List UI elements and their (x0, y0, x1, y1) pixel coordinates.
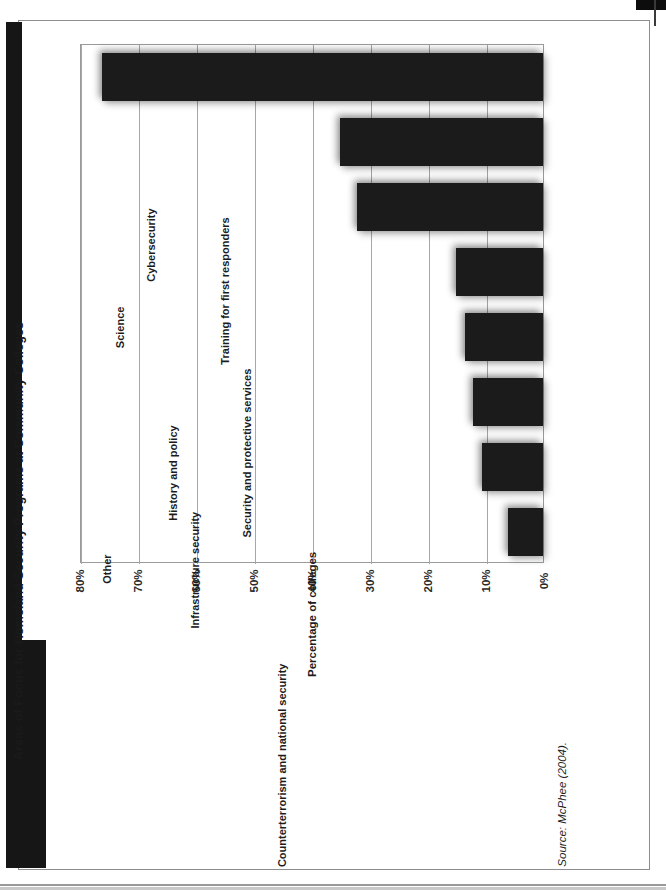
chart-gridline (313, 45, 314, 564)
chart-bar (465, 313, 543, 361)
chart-bar (102, 53, 543, 101)
chart-category-label: Training for first responders (219, 218, 231, 365)
chart-axis-title: Percentage of colleges (306, 557, 318, 677)
chart-bar (508, 508, 543, 556)
chart-gridline (139, 45, 140, 564)
figure-title: Areas of Focus for Homeland Security Pro… (12, 322, 26, 760)
chart-category-label: Infrastructure security (189, 512, 201, 629)
page-root: Figure 1 Areas of Focus for Homeland Sec… (0, 0, 666, 890)
figure-source-text: Source: McPhee (2004). (556, 742, 568, 867)
scan-top-margin (0, 0, 666, 4)
chart-tick-label: 80% (74, 561, 86, 601)
chart-gridline (81, 45, 82, 564)
chart-category-label: Cybersecurity (145, 209, 157, 282)
chart-gridline (255, 45, 256, 564)
chart-tick-label: 10% (480, 561, 492, 601)
chart-tick-label: 70% (132, 561, 144, 601)
chart-category-label: Security and protective services (241, 369, 253, 538)
chart-bar (482, 443, 543, 491)
chart-tick-label: 50% (248, 561, 260, 601)
chart-bar (357, 183, 543, 231)
scan-corner-rule (654, 0, 656, 26)
scan-bottom-rule-dark (0, 884, 666, 886)
chart-tick-label: 20% (422, 561, 434, 601)
chart-bar (340, 118, 543, 166)
figure-source-note: Source: McPhee (2004). (556, 742, 568, 867)
figure-title-wrap: Areas of Focus for Homeland Security Pro… (26, 0, 56, 760)
chart-tick-label: 0% (538, 561, 550, 601)
chart-category-label: Counterterrorism and national security (276, 663, 288, 867)
chart-bar (456, 248, 543, 296)
chart-gridline (197, 45, 198, 564)
chart-category-label: Science (114, 307, 126, 349)
chart-tick-label: 30% (364, 561, 376, 601)
chart-category-label: History and policy (167, 425, 179, 520)
chart-plot-area (80, 44, 544, 563)
chart-bar (473, 378, 543, 426)
chart-category-label: Other (101, 554, 113, 583)
scan-corner-mark (636, 0, 666, 10)
